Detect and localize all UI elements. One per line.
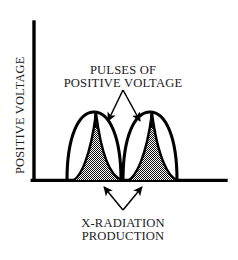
bottom-arrow-to-right-region: [123, 187, 142, 210]
bottom-arrow-to-left-region: [104, 187, 123, 210]
bottom-annotation-label: X-RADIATION PRODUCTION: [81, 216, 165, 243]
y-axis-label: POSITIVE VOLTAGE: [13, 56, 27, 174]
top-arrow-to-right-pulse: [123, 90, 140, 121]
bottom-annotation-arrows-group: [104, 187, 142, 210]
top-annotation-label: PULSES OF POSITIVE VOLTAGE: [64, 63, 183, 90]
waveform-diagram-canvas: POSITIVE VOLTAGE: [0, 0, 238, 260]
bottom-annotation-line2: PRODUCTION: [82, 229, 165, 243]
top-annotation-line2: POSITIVE VOLTAGE: [64, 76, 183, 90]
top-annotation-arrows-group: [108, 90, 140, 121]
waveform-figure: POSITIVE VOLTAGE: [0, 0, 238, 260]
top-arrow-to-left-pulse: [108, 90, 123, 121]
bottom-annotation-line1: X-RADIATION: [81, 216, 165, 230]
top-annotation-line1: PULSES OF: [90, 63, 156, 77]
